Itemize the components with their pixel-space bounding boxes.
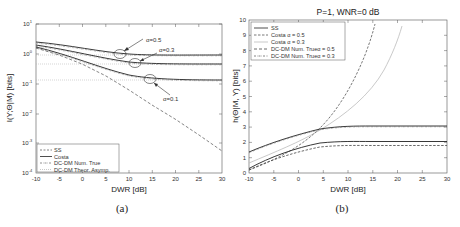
svg-text:Costa α = 0.5: Costa α = 0.5 (271, 32, 305, 38)
caption-a: (a) (116, 202, 129, 215)
svg-text:5: 5 (104, 176, 108, 182)
legend-a: SS Costa DC-DM Num. True DC-DM Theor. As… (37, 144, 119, 173)
svg-text:101: 101 (23, 19, 33, 27)
svg-text:5: 5 (322, 176, 326, 182)
svg-text:10-2: 10-2 (22, 109, 33, 117)
annotation-alpha-0.1: α=0.1 (163, 96, 179, 102)
svg-text:6: 6 (243, 78, 247, 84)
svg-text:10-4: 10-4 (22, 168, 33, 176)
svg-text:8: 8 (243, 48, 247, 54)
svg-text:-5: -5 (271, 176, 277, 182)
svg-text:25: 25 (195, 176, 202, 182)
svg-text:10: 10 (239, 17, 246, 23)
svg-text:Costa α = 0.3: Costa α = 0.3 (271, 39, 305, 45)
y-axis-label-b: h(Θ|M, Y) [bits] (231, 69, 240, 123)
svg-text:30: 30 (219, 176, 226, 182)
svg-text:10: 10 (126, 176, 133, 182)
svg-text:25: 25 (419, 176, 426, 182)
svg-text:DC-DM Num. Trueα = 0.3: DC-DM Num. Trueα = 0.3 (271, 53, 335, 59)
svg-text:10-1: 10-1 (22, 79, 33, 87)
chart-a: 101 100 10-1 10-2 10-3 10-4 -10 -5 0 5 1… (5, 19, 226, 215)
svg-text:5: 5 (243, 94, 247, 100)
x-axis-label-a: DWR [dB] (111, 185, 147, 194)
annotation-alpha-0.5: α=0.5 (146, 37, 162, 43)
chart-b: P=1, WNR=0 dB 0 1 (231, 7, 451, 215)
svg-text:-5: -5 (57, 176, 63, 182)
svg-text:7: 7 (243, 63, 247, 69)
svg-text:SS: SS (271, 25, 279, 31)
svg-text:20: 20 (172, 176, 179, 182)
svg-text:0: 0 (81, 176, 85, 182)
legend-b: SS Costa α = 0.5 Costa α = 0.3 DC-DM Num… (251, 22, 345, 60)
svg-text:10-3: 10-3 (22, 138, 33, 146)
y-tick-labels-b: 0 1 2 3 4 5 6 7 8 9 10 (239, 17, 246, 176)
svg-text:10: 10 (345, 176, 352, 182)
svg-text:DC-DM Theor. Asymp.: DC-DM Theor. Asymp. (54, 167, 110, 173)
y-axis-label-a: I(Y;Θ|M) [bits] (5, 74, 14, 123)
caption-b: (b) (336, 202, 349, 215)
svg-text:4: 4 (243, 109, 247, 115)
svg-text:30: 30 (444, 176, 451, 182)
chart-title-b: P=1, WNR=0 dB (317, 7, 380, 17)
annotation-alpha-0.3: α=0.3 (159, 47, 175, 53)
svg-text:Costa: Costa (54, 154, 70, 160)
svg-text:3: 3 (243, 124, 247, 130)
svg-text:0: 0 (297, 176, 301, 182)
svg-text:20: 20 (394, 176, 401, 182)
svg-text:9: 9 (243, 32, 247, 38)
svg-text:DC-DM Num. Trueα = 0.5: DC-DM Num. Trueα = 0.5 (271, 46, 335, 52)
y-tick-labels-a: 101 100 10-1 10-2 10-3 10-4 (22, 19, 33, 176)
svg-text:1: 1 (243, 155, 247, 161)
svg-text:15: 15 (369, 176, 376, 182)
svg-text:DC-DM Num. True: DC-DM Num. True (54, 160, 100, 166)
x-tick-labels-a: -10 -5 0 5 10 15 20 25 30 (32, 176, 226, 182)
svg-text:15: 15 (149, 176, 156, 182)
svg-text:SS: SS (54, 147, 62, 153)
svg-text:2: 2 (243, 139, 247, 145)
x-axis-label-b: DWR [dB] (330, 185, 366, 194)
x-tick-labels-b: -10 -5 0 5 10 15 20 25 30 (245, 176, 451, 182)
svg-text:100: 100 (23, 49, 33, 57)
svg-text:-10: -10 (245, 176, 254, 182)
svg-text:-10: -10 (32, 176, 41, 182)
